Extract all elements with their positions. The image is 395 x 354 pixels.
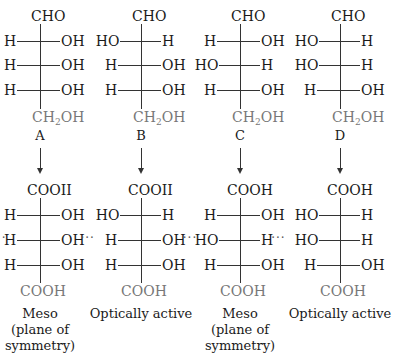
reactant-left-substituent: HO	[96, 33, 121, 49]
product-left-substituent: H	[105, 257, 118, 273]
symmetry-plane-marker-right: ···	[271, 231, 285, 245]
reactant-right-substituent: OH	[60, 82, 85, 98]
reaction-arrow-head-icon	[337, 168, 343, 174]
product-left-substituent: H	[204, 207, 217, 223]
reactant-top-group: CHO	[31, 8, 65, 24]
compound-label: D	[290, 128, 390, 143]
stereo-caption-line: Optically active	[285, 306, 395, 322]
compound-label: C	[190, 128, 290, 143]
reactant-right-substituent: H	[161, 33, 174, 49]
product-left-substituent: H	[4, 207, 17, 223]
oh-text: OH	[261, 109, 285, 125]
stereo-caption-line: Meso	[185, 306, 295, 322]
product-bottom-group: COOH	[220, 283, 266, 299]
ch-text: CH	[232, 109, 255, 125]
reactant-right-substituent: OH	[161, 57, 186, 73]
product-left-substituent: HO	[195, 232, 220, 248]
ch-text: CH	[332, 109, 355, 125]
product-top-group: COOII	[128, 182, 173, 198]
product-right-substituent: OH	[60, 207, 85, 223]
reactant-bottom-group: CH2OH	[332, 109, 384, 130]
reaction-arrow-shaft	[340, 148, 341, 170]
reaction-arrow-shaft	[40, 148, 41, 170]
stereo-caption-line: (plane of	[0, 322, 95, 338]
compound-label: A	[0, 128, 90, 143]
reactant-right-substituent: OH	[161, 82, 186, 98]
product-top-group: COOII	[27, 182, 72, 198]
reactant-left-substituent: H	[4, 57, 17, 73]
reactant-backbone-line	[340, 24, 341, 117]
reactant-right-substituent: OH	[260, 33, 285, 49]
product-bottom-group: COOH	[20, 283, 66, 299]
reactant-right-substituent: OH	[60, 57, 85, 73]
reactant-backbone-line	[40, 24, 41, 117]
product-right-substituent: OH	[360, 257, 385, 273]
reaction-arrow-head-icon	[237, 168, 243, 174]
product-right-substituent: OH	[260, 257, 285, 273]
reactant-right-substituent: OH	[60, 33, 85, 49]
reactant-left-substituent: H	[4, 82, 17, 98]
oh-text: OH	[61, 109, 85, 125]
reactant-left-substituent: HO	[295, 57, 320, 73]
reactant-right-substituent: OH	[360, 82, 385, 98]
product-top-group: COOH	[327, 182, 373, 198]
oh-text: OH	[361, 109, 385, 125]
reactant-top-group: CHO	[132, 8, 166, 24]
reactant-bottom-group: CH2OH	[32, 109, 84, 130]
product-right-substituent: H	[161, 207, 174, 223]
reactant-backbone-line	[141, 24, 142, 117]
symmetry-plane-marker-left: ···	[0, 231, 6, 245]
product-right-substituent: OH	[60, 257, 85, 273]
ch-text: CH	[133, 109, 156, 125]
reaction-arrow-shaft	[240, 148, 241, 170]
reactant-top-group: CHO	[231, 8, 265, 24]
stereo-caption-line: (plane of	[185, 322, 295, 338]
reactant-left-substituent: H	[105, 82, 118, 98]
product-right-substituent: H	[360, 207, 373, 223]
product-left-substituent: H	[204, 257, 217, 273]
product-top-group: COOH	[227, 182, 273, 198]
product-bottom-group: COOH	[121, 283, 167, 299]
product-left-substituent: HO	[295, 232, 320, 248]
product-bottom-group: COOH	[320, 283, 366, 299]
ch-text: CH	[32, 109, 55, 125]
reactant-right-substituent: H	[360, 33, 373, 49]
stereo-caption-line: symmetry)	[185, 338, 295, 354]
reactant-left-substituent: H	[105, 57, 118, 73]
stereo-caption-line: symmetry)	[0, 338, 95, 354]
reactant-left-substituent: H	[304, 82, 317, 98]
reactant-left-substituent: HO	[295, 33, 320, 49]
reactant-left-substituent: H	[204, 33, 217, 49]
reactant-left-substituent: HO	[195, 57, 220, 73]
reactant-bottom-group: CH2OH	[232, 109, 284, 130]
product-right-substituent: OH	[260, 207, 285, 223]
reactant-left-substituent: H	[4, 33, 17, 49]
reactant-right-substituent: H	[260, 57, 273, 73]
product-left-substituent: H	[4, 257, 17, 273]
compound-label: B	[91, 128, 191, 143]
product-left-substituent: H	[304, 257, 317, 273]
reaction-arrow-shaft	[141, 148, 142, 170]
reaction-arrow-head-icon	[37, 168, 43, 174]
stereo-caption-line: Optically active	[86, 306, 196, 322]
reactant-right-substituent: H	[360, 57, 373, 73]
symmetry-plane-marker-right: ···	[80, 231, 94, 245]
symmetry-plane-marker-left: ···	[183, 231, 197, 245]
reactant-left-substituent: H	[204, 82, 217, 98]
reactant-right-substituent: OH	[260, 82, 285, 98]
stereo-caption-line: Meso	[0, 306, 95, 322]
oh-text: OH	[162, 109, 186, 125]
product-right-substituent: H	[360, 232, 373, 248]
reactant-bottom-group: CH2OH	[133, 109, 185, 130]
product-left-substituent: H	[105, 232, 118, 248]
product-left-substituent: HO	[96, 207, 121, 223]
reactant-backbone-line	[240, 24, 241, 117]
reaction-arrow-head-icon	[138, 168, 144, 174]
product-left-substituent: HO	[295, 207, 320, 223]
reactant-top-group: CHO	[331, 8, 365, 24]
product-right-substituent: OH	[161, 257, 186, 273]
